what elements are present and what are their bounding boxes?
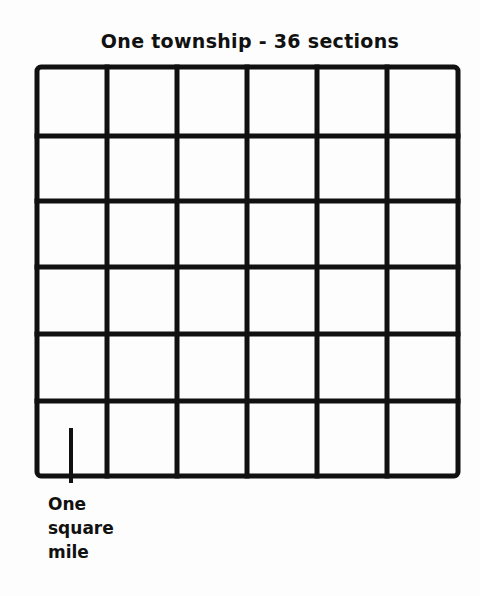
square-mile-label: One square mile <box>48 492 114 564</box>
label-line: One <box>48 492 114 516</box>
label-line: square <box>48 516 114 540</box>
label-line: mile <box>48 540 114 564</box>
